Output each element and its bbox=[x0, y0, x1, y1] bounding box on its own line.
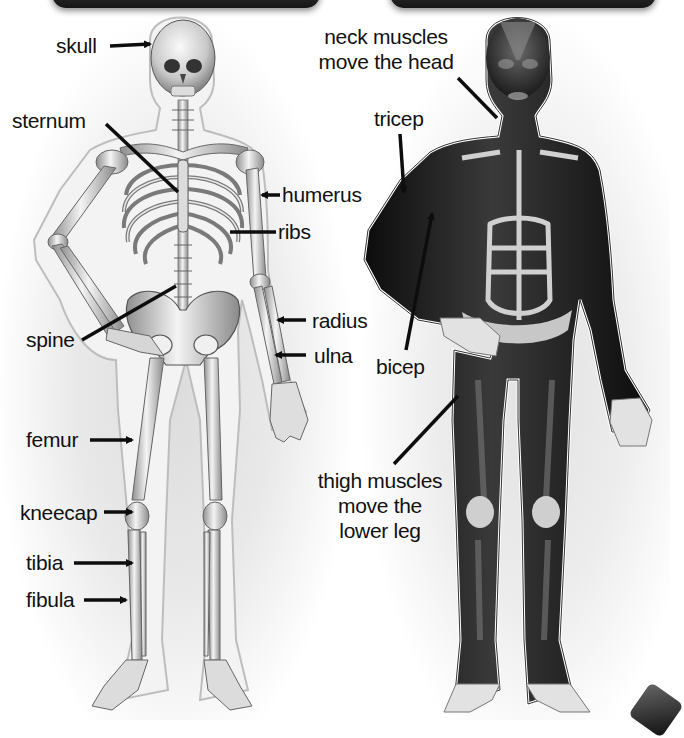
label-thigh-line1: thigh muscles bbox=[306, 468, 454, 493]
label-femur: femur bbox=[26, 427, 78, 452]
sternum-artwork bbox=[178, 160, 188, 232]
label-tibia: tibia bbox=[26, 550, 63, 575]
label-tricep: tricep bbox=[374, 106, 424, 131]
skull-pointer bbox=[110, 44, 150, 46]
label-neck-line2: move the head bbox=[310, 49, 462, 74]
label-radius: radius bbox=[312, 308, 367, 333]
label-fibula: fibula bbox=[26, 587, 74, 612]
label-thigh-muscles: thigh muscles move the lower leg bbox=[306, 468, 454, 543]
thigh-pointer bbox=[394, 396, 458, 464]
skull-artwork bbox=[151, 20, 215, 96]
label-neck-line1: neck muscles bbox=[310, 24, 462, 49]
label-spine: spine bbox=[26, 327, 75, 352]
label-sternum: sternum bbox=[12, 108, 86, 133]
label-thigh-line3: lower leg bbox=[306, 518, 454, 543]
label-neck-muscles: neck muscles move the head bbox=[310, 24, 462, 74]
label-humerus: humerus bbox=[282, 182, 362, 207]
label-ribs: ribs bbox=[278, 219, 311, 244]
label-bicep: bicep bbox=[376, 354, 425, 379]
label-ulna: ulna bbox=[314, 343, 353, 368]
label-kneecap: kneecap bbox=[20, 500, 97, 525]
label-thigh-line2: move the bbox=[306, 493, 454, 518]
label-skull: skull bbox=[56, 33, 97, 58]
muscle-knees bbox=[466, 496, 560, 528]
